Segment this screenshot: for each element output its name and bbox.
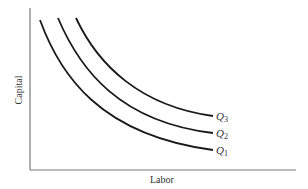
isoquant-q1 — [40, 20, 213, 150]
label-q1: Q1 — [216, 144, 228, 158]
label-q2: Q2 — [216, 127, 228, 141]
isoquant-q3 — [76, 18, 213, 116]
label-q3: Q3 — [216, 110, 228, 124]
y-axis-label: Capital — [13, 75, 24, 104]
isoquant-diagram: Q3 Q2 Q1 Labor Capital — [0, 0, 308, 189]
isoquant-q2 — [58, 18, 213, 133]
x-axis-label: Labor — [150, 174, 175, 185]
